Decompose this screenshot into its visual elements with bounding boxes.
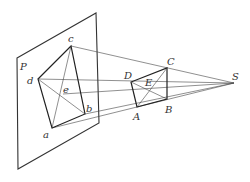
label-c-lower: c [68, 33, 74, 44]
label-d-lower: d [27, 75, 33, 86]
label-e-upper: E [144, 77, 153, 88]
label-s: S [232, 71, 239, 82]
image-diagonals [38, 46, 85, 128]
label-b-upper: B [164, 104, 172, 115]
label-p: P [19, 61, 27, 72]
label-d-upper: D [123, 70, 132, 81]
label-b-lower: b [86, 103, 92, 114]
label-c-upper: C [167, 56, 175, 67]
projection-diagram: P c d e b a D C E B A S [0, 0, 250, 182]
label-a-upper: A [132, 111, 140, 122]
label-a-lower: a [43, 129, 49, 140]
label-e-lower: e [63, 84, 69, 95]
plane-p [17, 13, 99, 169]
